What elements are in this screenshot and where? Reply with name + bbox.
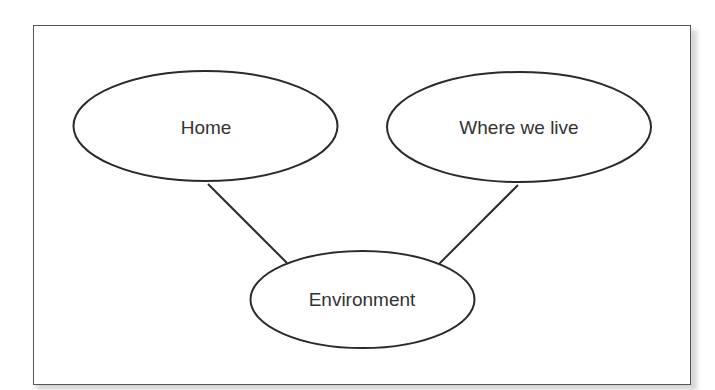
- edge-home-environment: [208, 184, 287, 263]
- node-environment: Environment: [251, 251, 475, 348]
- node-where-we-live: Where we live: [387, 72, 651, 182]
- edge-where-we-live-environment: [439, 185, 518, 264]
- node-home-label: Home: [181, 117, 232, 138]
- node-where-we-live-label: Where we live: [459, 117, 578, 138]
- node-environment-label: Environment: [309, 289, 416, 310]
- node-home: Home: [74, 71, 338, 181]
